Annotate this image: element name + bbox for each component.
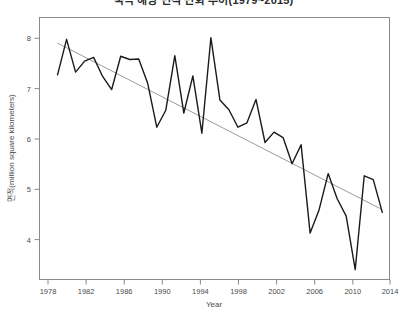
x-axis-ticks xyxy=(48,280,390,285)
sea-ice-extent-series xyxy=(58,38,383,270)
x-tick-label: 2002 xyxy=(268,287,285,296)
x-tick-label: 1982 xyxy=(78,287,95,296)
y-tick-label: 4 xyxy=(27,236,31,245)
y-axis-ticks xyxy=(35,38,40,239)
x-tick-label: 2006 xyxy=(306,287,323,296)
trend-line-series xyxy=(58,43,383,209)
x-tick-label: 1998 xyxy=(230,287,247,296)
x-tick-label: 2010 xyxy=(344,287,361,296)
x-tick-label: 1986 xyxy=(116,287,133,296)
y-tick-label: 5 xyxy=(27,185,31,194)
x-tick-label: 1990 xyxy=(154,287,171,296)
y-axis-tick-labels: 8 7 6 5 4 xyxy=(27,34,31,244)
x-axis-title: Year xyxy=(206,300,223,309)
y-axis-title: 면적(million square kilometers) xyxy=(6,94,16,202)
y-tick-label: 6 xyxy=(27,135,31,144)
x-tick-label: 1978 xyxy=(40,287,57,296)
x-axis-tick-labels: 1978 1982 1986 1990 1994 1998 2002 2006 … xyxy=(40,287,399,296)
plot-frame xyxy=(40,18,390,280)
x-tick-label: 2014 xyxy=(382,287,399,296)
chart-figure: 북극 해빙 면적 변화 추이(1979~2015) 8 7 6 5 4 xyxy=(0,0,407,323)
y-tick-label: 8 xyxy=(27,34,31,43)
y-tick-label: 7 xyxy=(27,85,31,94)
x-tick-label: 1994 xyxy=(192,287,209,296)
chart-plot-area: 8 7 6 5 4 1978 1982 1986 1990 1994 1998 xyxy=(0,0,407,323)
